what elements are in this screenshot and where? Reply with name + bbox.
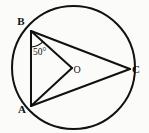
point-label-o: O	[73, 64, 80, 75]
point-label-c: C	[132, 63, 140, 75]
geometry-figure: B A C O 50°	[0, 0, 149, 133]
point-label-b: B	[17, 15, 25, 27]
geometry-canvas: B A C O 50°	[0, 0, 149, 133]
angle-label-50-degrees: 50°	[33, 47, 47, 57]
point-label-a: A	[18, 103, 26, 115]
segment-AO	[31, 68, 72, 106]
